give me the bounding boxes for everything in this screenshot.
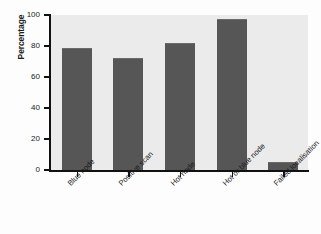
y-axis-line [49,14,51,171]
y-tick-mark [44,14,51,15]
bar [165,43,195,170]
y-tick-mark [44,76,51,77]
y-tick-label: 60 [18,73,40,81]
bar-chart-figure: Percentage 020406080100 Blue nodePositiv… [0,0,321,234]
y-tick-mark [44,169,51,170]
bar [217,19,247,170]
plot-area [50,15,308,170]
y-tick-mark [44,138,51,139]
y-tick-mark [44,45,51,46]
bar [113,58,143,170]
y-tick-label: 100 [18,11,40,19]
y-tick-mark [44,107,51,108]
y-tick-label: 80 [18,42,40,50]
y-tick-label: 20 [18,135,40,143]
y-tick-label: 40 [18,104,40,112]
y-tick-label: 0 [18,166,40,174]
bar [62,48,92,170]
